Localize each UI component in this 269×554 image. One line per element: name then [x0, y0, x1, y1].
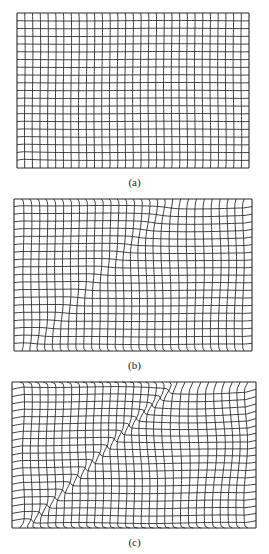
mesh-line-horizontal [17, 137, 249, 138]
mesh-line-vertical [37, 199, 40, 351]
caption-b: (b) [0, 359, 269, 371]
mesh-line-horizontal [17, 75, 249, 76]
mesh-line-horizontal [17, 82, 249, 83]
mesh-line-horizontal [12, 401, 256, 409]
mesh-line-horizontal [14, 281, 252, 283]
caption-c: (c) [0, 536, 269, 548]
mesh-line-vertical [40, 382, 48, 528]
mesh-line-vertical [68, 199, 72, 351]
mesh-line-vertical [124, 382, 134, 528]
mesh-line-vertical [220, 382, 225, 528]
mesh-line-horizontal [12, 423, 256, 430]
mesh-line-horizontal [14, 266, 252, 268]
mesh-line-horizontal [17, 44, 249, 45]
mesh-line-vertical [132, 382, 142, 528]
mesh-line-horizontal [17, 90, 249, 91]
mesh-line-vertical [87, 382, 96, 528]
mesh-line-vertical [188, 382, 193, 528]
mesh-line-horizontal [14, 304, 252, 306]
mesh-line-horizontal [14, 243, 252, 246]
mesh-line-horizontal [12, 408, 256, 416]
mesh-line-horizontal [17, 144, 249, 145]
mesh-line-vertical [236, 382, 240, 528]
mesh-line-vertical [30, 199, 32, 351]
mesh-line-vertical [20, 382, 25, 528]
mesh-line-vertical [179, 382, 185, 528]
mesh-line-vertical [84, 199, 88, 351]
deformed-mesh-b [13, 198, 253, 352]
mesh-line-horizontal [17, 59, 249, 60]
mesh-line-vertical [228, 382, 233, 528]
mesh-line-horizontal [17, 67, 249, 68]
mesh-line-horizontal [14, 213, 252, 217]
mesh-line-vertical [56, 382, 64, 528]
mesh-line-vertical [33, 382, 40, 528]
mesh-line-vertical [115, 199, 119, 351]
mesh-line-horizontal [17, 20, 249, 21]
mesh-line-vertical [162, 382, 172, 528]
mesh-line-vertical [123, 199, 127, 351]
mesh-line-vertical [22, 199, 24, 351]
mesh-line-vertical [48, 382, 56, 528]
mesh-line-vertical [130, 199, 134, 351]
mesh-line-vertical [71, 382, 79, 528]
mesh-line-vertical [139, 382, 149, 528]
deformed-mesh-a [16, 12, 250, 169]
mesh-line-horizontal [12, 445, 256, 450]
mesh-line-vertical [117, 382, 126, 528]
mesh-line-vertical [60, 199, 64, 351]
deformed-mesh-c [11, 381, 257, 529]
mesh-line-vertical [212, 382, 216, 528]
mesh-line-horizontal [14, 343, 252, 345]
mesh-line-horizontal [17, 28, 249, 29]
mesh-line-vertical [94, 382, 103, 528]
mesh-line-horizontal [17, 51, 249, 52]
mesh-line-horizontal [14, 236, 252, 239]
mesh-line-vertical [196, 382, 201, 528]
mesh-line-vertical [92, 199, 96, 351]
mesh-line-horizontal [14, 259, 252, 261]
mesh-line-horizontal [12, 489, 256, 494]
mesh-line-horizontal [12, 482, 256, 486]
mesh-line-vertical [244, 382, 248, 528]
mesh-line-vertical [154, 382, 164, 528]
mesh-line-horizontal [14, 327, 252, 329]
mesh-line-vertical [28, 382, 33, 528]
mesh-line-horizontal [12, 430, 256, 436]
mesh-line-horizontal [12, 394, 256, 402]
mesh-line-vertical [79, 382, 88, 528]
mesh-line-vertical [153, 199, 158, 351]
mesh-line-vertical [138, 199, 142, 351]
mesh-line-horizontal [14, 251, 252, 254]
mesh-line-horizontal [17, 36, 249, 37]
mesh-line-horizontal [12, 452, 256, 457]
mesh-line-horizontal [14, 289, 252, 291]
caption-a: (a) [0, 176, 269, 188]
mesh-line-horizontal [12, 437, 256, 442]
mesh-line-vertical [204, 382, 208, 528]
mesh-line-horizontal [14, 297, 252, 299]
mesh-line-vertical [63, 382, 71, 528]
mesh-line-horizontal [14, 274, 252, 276]
mesh-line-vertical [170, 382, 177, 528]
mesh-line-horizontal [14, 205, 252, 209]
mesh-line-horizontal [14, 320, 252, 322]
mesh-line-vertical [76, 199, 80, 351]
mesh-line-vertical [102, 382, 111, 528]
mesh-line-horizontal [14, 221, 252, 225]
mesh-line-horizontal [14, 312, 252, 314]
mesh-line-horizontal [14, 335, 252, 337]
